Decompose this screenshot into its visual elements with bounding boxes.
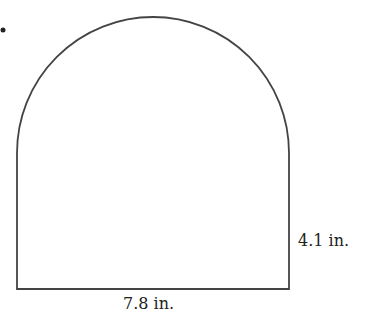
figure-canvas (0, 0, 369, 320)
composite-shape-outline (17, 17, 289, 289)
bullet-dot (1, 28, 6, 33)
height-label: 4.1 in. (298, 231, 349, 250)
width-label: 7.8 in. (123, 294, 174, 313)
